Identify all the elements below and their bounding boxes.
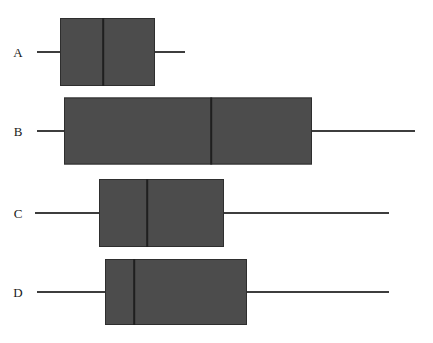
box-plot-chart: A B C D xyxy=(0,0,433,343)
category-label-a: A xyxy=(13,46,22,59)
box-b xyxy=(64,98,312,165)
category-label-c: C xyxy=(14,207,23,220)
box-a xyxy=(60,18,155,86)
category-label-b: B xyxy=(14,125,23,138)
median-c xyxy=(146,179,148,247)
median-a xyxy=(102,18,104,86)
median-d xyxy=(133,259,135,325)
plot-area: A B C D xyxy=(0,0,433,343)
median-b xyxy=(210,98,212,165)
box-c xyxy=(99,179,224,247)
category-label-d: D xyxy=(13,286,22,299)
box-d xyxy=(105,259,247,325)
